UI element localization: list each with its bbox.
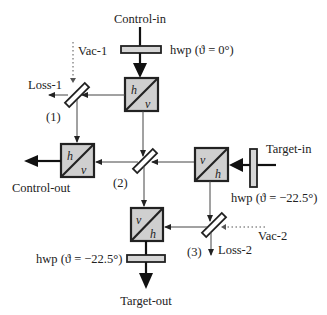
pbs-4: v h [131, 208, 163, 241]
beam-splitter-3 [202, 213, 226, 237]
bs-2-label: (2) [113, 176, 128, 190]
hwp-target-in-label: hwp (ϑ = −22.5°) [231, 191, 317, 205]
pbs-4-bottom-label: h [150, 227, 156, 241]
big-arrow-left-icon [24, 155, 38, 167]
vac-2-arrow-icon [221, 224, 226, 230]
vac-1-arrow-icon [70, 78, 76, 83]
pbs-3-bottom-label: h [215, 167, 221, 181]
control-out-label: Control-out [12, 181, 71, 195]
pbs-2-bottom-label: v [81, 163, 87, 177]
loss-1-label: Loss-1 [28, 78, 62, 92]
loss-2-label: Loss-2 [218, 243, 252, 257]
hwp-control-in-label: hwp (ϑ = 0°) [170, 43, 234, 57]
pbs-2-top-label: h [67, 149, 73, 163]
beam-splitter-2 [133, 149, 157, 173]
pbs-1: h v [125, 78, 158, 111]
pbs-3-top-label: v [200, 153, 206, 167]
pbs-1-top-label: h [131, 83, 137, 97]
big-arrow-left-icon [229, 158, 243, 172]
pbs-1-bottom-label: v [145, 97, 151, 111]
hwp-control-in [121, 46, 161, 53]
hwp-target-in [250, 149, 257, 187]
big-arrow-down-icon [139, 273, 153, 289]
pbs-2: h v [61, 144, 94, 177]
optical-circuit-diagram: Control-in hwp (ϑ = 0°) h v Vac-1 (1) Lo… [0, 0, 327, 315]
target-out-label: Target-out [120, 294, 172, 308]
vac-2-label: Vac-2 [258, 229, 287, 243]
control-in-label: Control-in [114, 12, 167, 26]
bs-1-label: (1) [46, 110, 61, 124]
target-in-label: Target-in [266, 142, 312, 156]
pbs-3: v h [195, 148, 228, 181]
vac-1-label: Vac-1 [78, 44, 107, 58]
bs-3-label: (3) [187, 245, 202, 259]
pbs-4-top-label: v [136, 213, 142, 227]
hwp-target-out [127, 255, 165, 262]
hwp-target-out-label: hwp (ϑ = −22.5°) [36, 252, 122, 266]
big-arrow-down-icon [133, 63, 147, 78]
